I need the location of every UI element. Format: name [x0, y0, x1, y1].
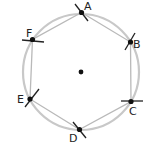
center-point	[79, 70, 84, 75]
label-b: B	[133, 38, 141, 51]
label-c: C	[129, 105, 137, 118]
label-a: A	[84, 0, 92, 13]
hexagon-diagram: A B C D E F	[0, 0, 159, 148]
label-d: D	[69, 132, 77, 145]
label-e: E	[17, 93, 24, 106]
label-f: F	[26, 27, 32, 40]
